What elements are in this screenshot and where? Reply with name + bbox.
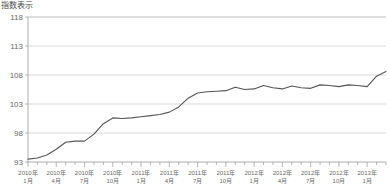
x-tick-label-month: 7月 [306, 178, 315, 185]
x-tick-label-year: 2011年 [132, 169, 151, 177]
x-tick-label-month: 4月 [52, 178, 61, 185]
x-tick-label-month: 10月 [219, 178, 232, 185]
x-tick-label-month: 1月 [249, 178, 258, 185]
y-tick-label: 118 [10, 13, 23, 22]
x-tick-label-year: 2011年 [216, 169, 235, 177]
x-tick-label-month: 1月 [362, 178, 371, 185]
y-tick-label: 93 [14, 158, 23, 167]
x-tick-label-month: 4月 [165, 178, 174, 185]
x-tick-label-year: 2012年 [301, 169, 320, 177]
gridlines [28, 17, 386, 133]
y-axis-ticks: 9398103108113118 [10, 13, 28, 167]
x-tick-label-month: 1月 [136, 178, 145, 185]
x-tick-label-year: 2010年 [103, 169, 122, 177]
x-tick-label-year: 2012年 [244, 169, 263, 177]
x-tick-label-month: 4月 [278, 178, 287, 185]
x-tick-label-year: 2013年 [357, 169, 376, 177]
x-tick-label-year: 2012年 [273, 169, 292, 177]
x-axis-labels: 2010年1月2010年4月2010年7月2010年10月2011年1月2011… [18, 169, 377, 185]
x-tick-label-month: 7月 [80, 178, 89, 185]
x-tick-label-month: 10月 [333, 178, 346, 185]
x-tick-label-year: 2010年 [47, 169, 66, 177]
x-tick-label-year: 2010年 [75, 169, 94, 177]
x-tick-label-year: 2011年 [188, 169, 207, 177]
y-tick-label: 98 [14, 129, 23, 138]
x-axis-ticks [28, 162, 386, 167]
x-tick-label-year: 2012年 [329, 169, 348, 177]
y-tick-label: 108 [10, 71, 24, 80]
index-chart: 指数表示 9398103108113118 2010年1月2010年4月2010… [0, 0, 389, 192]
x-tick-label-year: 2011年 [160, 169, 179, 177]
data-series [28, 72, 386, 160]
y-tick-label: 103 [10, 100, 24, 109]
chart-plot-area: 9398103108113118 2010年1月2010年4月2010年7月20… [0, 0, 389, 192]
x-tick-label-month: 10月 [106, 178, 119, 185]
axis-lines [28, 17, 386, 162]
x-tick-label-month: 1月 [23, 178, 32, 185]
y-tick-label: 113 [10, 42, 23, 51]
series-line [28, 72, 386, 160]
x-tick-label-year: 2010年 [18, 169, 37, 177]
x-tick-label-month: 7月 [193, 178, 202, 185]
